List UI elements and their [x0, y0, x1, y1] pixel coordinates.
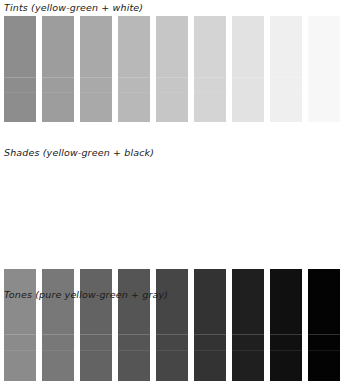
swatch-tints-8 [270, 16, 302, 122]
swatch-row-tints [0, 16, 341, 122]
scan-artifact-line [80, 77, 112, 78]
scan-artifact-line [80, 350, 112, 351]
scan-artifact-line [308, 350, 340, 351]
scan-artifact-line [308, 77, 340, 78]
scan-artifact-line [118, 350, 150, 351]
swatch-shades-7 [232, 269, 264, 381]
swatch-row-shades [0, 269, 341, 381]
swatch-shades-3 [80, 269, 112, 381]
swatch-shades-2 [42, 269, 74, 381]
scan-artifact-line [232, 92, 264, 93]
scan-artifact-line [270, 92, 302, 93]
swatch-shades-8 [270, 269, 302, 381]
scan-artifact-line [156, 334, 188, 335]
scan-artifact-line [118, 334, 150, 335]
scan-artifact-line [194, 350, 226, 351]
scan-artifact-line [270, 334, 302, 335]
swatch-shades-4 [118, 269, 150, 381]
scan-artifact-line [194, 334, 226, 335]
scan-artifact-line [42, 77, 74, 78]
swatch-tints-5 [156, 16, 188, 122]
scan-artifact-line [232, 77, 264, 78]
scan-artifact-line [270, 350, 302, 351]
swatch-tints-2 [42, 16, 74, 122]
scan-artifact-line [4, 334, 36, 335]
swatch-shades-6 [194, 269, 226, 381]
section-label-tints: Tints (yellow-green + white) [0, 2, 143, 14]
section-label-tones: Tones (pure yellow-green + gray) [0, 289, 168, 301]
scan-artifact-line [118, 92, 150, 93]
scan-artifact-line [42, 334, 74, 335]
section-label-shades: Shades (yellow-green + black) [0, 147, 154, 159]
scan-artifact-line [232, 334, 264, 335]
swatch-tints-4 [118, 16, 150, 122]
swatch-shades-1 [4, 269, 36, 381]
scan-artifact-line [4, 92, 36, 93]
swatch-tints-6 [194, 16, 226, 122]
scan-artifact-line [308, 334, 340, 335]
scan-artifact-line [156, 92, 188, 93]
scan-artifact-line [4, 350, 36, 351]
scan-artifact-line [308, 92, 340, 93]
scan-artifact-line [80, 92, 112, 93]
scan-artifact-line [4, 77, 36, 78]
swatch-tints-9 [308, 16, 340, 122]
scan-artifact-line [42, 92, 74, 93]
swatch-tints-3 [80, 16, 112, 122]
scan-artifact-line [156, 77, 188, 78]
scan-artifact-line [270, 77, 302, 78]
scan-artifact-line [232, 350, 264, 351]
swatch-shades-5 [156, 269, 188, 381]
scan-artifact-line [118, 77, 150, 78]
scan-artifact-line [156, 350, 188, 351]
scan-artifact-line [42, 350, 74, 351]
scan-artifact-line [194, 92, 226, 93]
swatch-shades-9 [308, 269, 340, 381]
swatch-tints-7 [232, 16, 264, 122]
swatch-tints-1 [4, 16, 36, 122]
scan-artifact-line [80, 334, 112, 335]
scan-artifact-line [194, 77, 226, 78]
